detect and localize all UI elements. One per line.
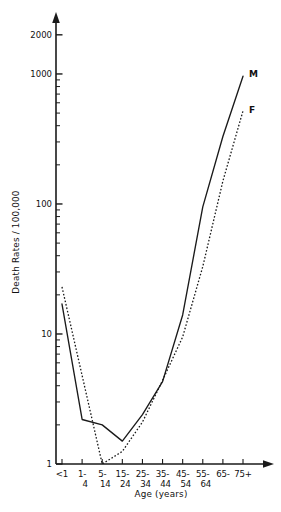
x-tick-label-bottom: 34 bbox=[140, 479, 151, 489]
x-tick-label-bottom: 24 bbox=[120, 479, 131, 489]
series-label-male: M bbox=[249, 69, 258, 79]
y-axis-arrowhead-icon bbox=[52, 12, 60, 23]
axes-group bbox=[52, 12, 274, 468]
y-axis-major-ticks bbox=[56, 35, 63, 464]
y-tick-label: 100 bbox=[36, 199, 52, 209]
chart-canvas: 11010010002000 <11-5-15-25-35-45-55-65-7… bbox=[0, 0, 281, 512]
x-tick-label-top: 15- bbox=[116, 469, 130, 479]
y-axis-tick-labels: 11010010002000 bbox=[30, 30, 52, 469]
x-tick-label-top: 75+ bbox=[234, 469, 252, 479]
y-axis-title: Death Rates / 100,000 bbox=[11, 190, 21, 293]
x-axis-title: Age (years) bbox=[134, 489, 187, 499]
x-tick-label-bottom: 54 bbox=[180, 479, 191, 489]
x-tick-label-top: 35- bbox=[156, 469, 170, 479]
y-tick-label: 10 bbox=[41, 329, 52, 339]
series-line-female bbox=[62, 111, 243, 464]
x-tick-label-top: 5- bbox=[98, 469, 106, 479]
y-tick-label: 1 bbox=[47, 459, 52, 469]
y-tick-label: 2000 bbox=[30, 30, 52, 40]
y-tick-label: 1000 bbox=[30, 69, 52, 79]
x-axis-tick-labels-top: <11-5-15-25-35-45-55-65-75+ bbox=[56, 469, 252, 479]
x-tick-label-bottom: 14 bbox=[100, 479, 111, 489]
series-line-male bbox=[62, 76, 243, 441]
x-tick-label-bottom: 44 bbox=[160, 479, 171, 489]
series-group bbox=[62, 76, 243, 464]
x-tick-label-top: 45- bbox=[176, 469, 190, 479]
x-axis-arrowhead-icon bbox=[263, 460, 274, 468]
x-tick-label-top: 1- bbox=[78, 469, 86, 479]
x-tick-label-bottom: 64 bbox=[201, 479, 212, 489]
x-tick-label-top: 65- bbox=[216, 469, 230, 479]
x-tick-label-top: 25- bbox=[136, 469, 150, 479]
series-label-female: F bbox=[249, 105, 255, 115]
x-tick-label-top: 55- bbox=[196, 469, 210, 479]
x-tick-label-bottom: 4 bbox=[82, 479, 87, 489]
death-rate-chart-figure: 11010010002000 <11-5-15-25-35-45-55-65-7… bbox=[0, 0, 281, 512]
x-axis-tick-labels-bottom: 4142434445464 bbox=[82, 479, 211, 489]
x-tick-label-top: <1 bbox=[56, 469, 68, 479]
